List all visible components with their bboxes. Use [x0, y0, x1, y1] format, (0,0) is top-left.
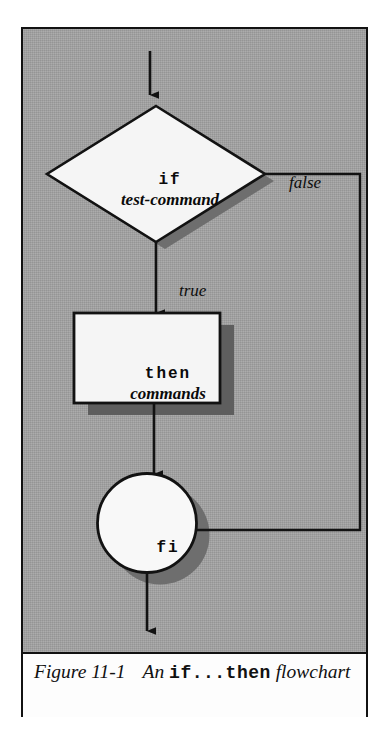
caption-lead: An — [143, 661, 165, 682]
decision-expression: test-command — [70, 190, 270, 209]
edge-label-true: true — [179, 281, 206, 301]
figure-number: Figure 11-1 — [34, 661, 126, 682]
process-node-label: then commands — [97, 366, 239, 403]
edge-label-false: false — [289, 173, 321, 193]
figure-caption: Figure 11-1An if...then flowchart — [23, 654, 366, 717]
terminator-node-label: fi — [119, 540, 217, 558]
caption-code: if...then — [169, 663, 271, 683]
figure-frame: if test-command then commands fi false t… — [21, 27, 368, 717]
caption-tail: flowchart — [276, 661, 351, 682]
decision-keyword: if — [70, 172, 270, 190]
decision-node-label: if test-command — [70, 172, 270, 209]
process-keyword: then — [97, 366, 239, 384]
process-expression: commands — [97, 384, 239, 403]
flowchart-svg — [23, 29, 366, 652]
flowchart-diagram-panel: if test-command then commands fi false t… — [23, 29, 366, 654]
